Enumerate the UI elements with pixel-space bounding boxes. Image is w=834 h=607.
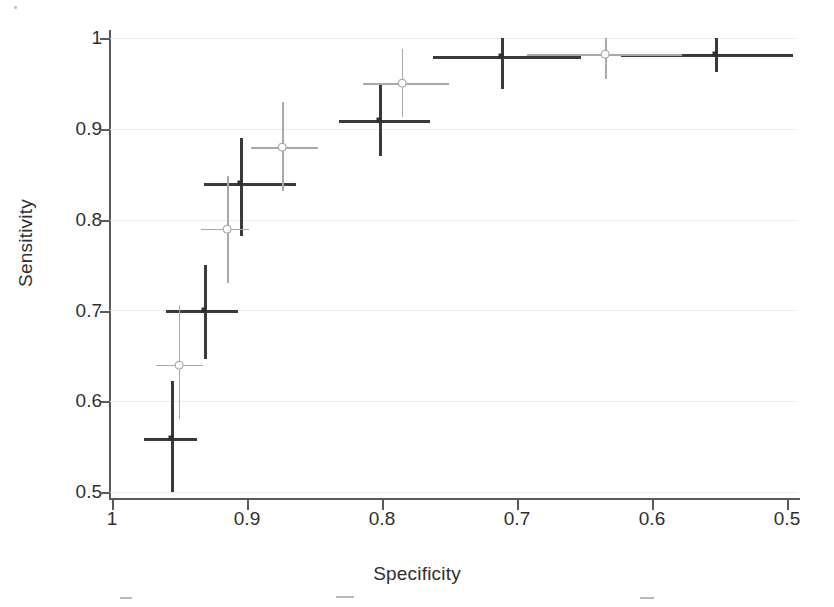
gridline bbox=[110, 129, 796, 130]
error-bar-horizontal bbox=[433, 56, 581, 59]
data-point-marker bbox=[398, 79, 407, 88]
data-point-marker bbox=[202, 308, 207, 313]
x-tick-label: 0.7 bbox=[487, 508, 547, 530]
x-tick-label: 0.9 bbox=[217, 508, 277, 530]
data-point-marker bbox=[713, 52, 718, 57]
x-tick-label: 1 bbox=[82, 508, 142, 530]
gridline bbox=[110, 401, 796, 402]
data-point-marker bbox=[238, 181, 243, 186]
x-axis-line bbox=[110, 498, 800, 500]
gridline bbox=[110, 220, 796, 221]
gridline bbox=[110, 492, 796, 493]
error-bar-vertical bbox=[501, 38, 504, 89]
gridline bbox=[110, 38, 796, 39]
x-tick-label: 0.5 bbox=[757, 508, 817, 530]
data-point-marker bbox=[377, 117, 382, 122]
data-point-marker bbox=[223, 224, 232, 233]
scan-speck bbox=[120, 597, 132, 599]
error-bar-horizontal bbox=[339, 120, 430, 123]
y-axis-title: Sensitivity bbox=[15, 173, 37, 313]
roc-chart: 1 0.9 0.8 0.7 0.6 0.5 1 0.9 0.8 0.7 0.6 … bbox=[0, 0, 834, 607]
y-tick-label: 0.8 bbox=[42, 209, 102, 231]
data-point-marker bbox=[601, 50, 610, 59]
x-axis-title: Specificity bbox=[0, 563, 834, 585]
x-tick-label: 0.6 bbox=[622, 508, 682, 530]
plot-area bbox=[110, 38, 796, 492]
y-tick-label: 0.5 bbox=[42, 481, 102, 503]
scan-speck bbox=[640, 597, 654, 599]
data-point-marker bbox=[168, 435, 173, 440]
y-tick-label: 0.9 bbox=[42, 118, 102, 140]
y-tick-label: 0.7 bbox=[42, 300, 102, 322]
y-tick-label: 1 bbox=[42, 27, 102, 49]
scan-speck bbox=[14, 6, 17, 9]
data-point-marker bbox=[174, 361, 183, 370]
error-bar-vertical bbox=[240, 138, 243, 236]
y-tick-label: 0.6 bbox=[42, 390, 102, 412]
x-tick-label: 0.8 bbox=[352, 508, 412, 530]
scan-speck bbox=[336, 596, 354, 598]
data-point-marker bbox=[278, 143, 287, 152]
data-point-marker bbox=[499, 54, 504, 59]
